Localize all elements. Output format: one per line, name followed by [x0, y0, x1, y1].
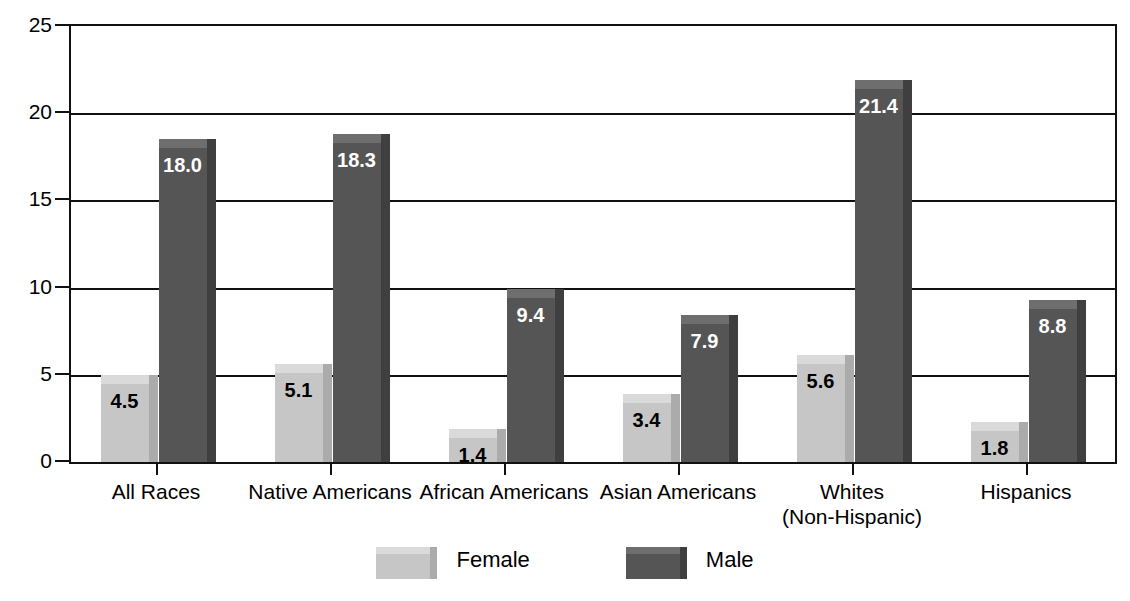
y-tick-label: 5	[12, 363, 52, 384]
bar-top-face	[971, 422, 1019, 431]
legend-item-female[interactable]: Female	[376, 540, 529, 579]
x-tick-mark	[852, 462, 854, 475]
legend-label: Male	[696, 549, 754, 571]
bar-value-label: 1.4	[449, 445, 497, 465]
bar-value-label: 21.4	[855, 96, 903, 116]
swatch-face	[376, 547, 430, 554]
bar-top-face	[855, 80, 903, 89]
x-tick-mark	[330, 462, 332, 475]
x-tick-mark	[1026, 462, 1028, 475]
bar-male-1: 18.3	[333, 134, 381, 462]
bar-top-face	[1029, 300, 1077, 309]
legend-label: Female	[446, 549, 529, 571]
bar-value-label: 9.4	[507, 305, 555, 325]
bar-top-face	[507, 289, 555, 298]
gridline	[71, 200, 1115, 202]
bar-side-face	[555, 289, 564, 462]
bar-value-label: 4.5	[101, 391, 149, 411]
swatch-face	[626, 547, 680, 554]
bar-top-face	[275, 364, 323, 373]
x-tick-mark	[678, 462, 680, 475]
swatch-face	[680, 547, 687, 579]
bar-female-1: 5.1	[275, 364, 323, 462]
bar-top-face	[623, 394, 671, 403]
bar-side-face	[381, 134, 390, 462]
legend-swatch-male	[626, 547, 680, 579]
bar-female-2: 1.4	[449, 429, 497, 462]
bar-female-0: 4.5	[101, 375, 149, 462]
y-tick-mark	[55, 111, 69, 113]
bar-side-face	[149, 375, 158, 462]
gridline	[71, 113, 1115, 115]
bar-male-3: 7.9	[681, 315, 729, 462]
bar-top-face	[159, 139, 207, 148]
bar-top-face	[333, 134, 381, 143]
legend-item-male[interactable]: Male	[626, 540, 754, 579]
bar-side-face	[323, 364, 332, 462]
bar-male-5: 8.8	[1029, 300, 1077, 462]
bar-female-5: 1.8	[971, 422, 1019, 462]
legend-swatch-female	[376, 547, 430, 579]
plot-area: 4.518.05.118.31.49.43.47.95.621.41.88.8	[69, 24, 1117, 464]
bar-top-face	[449, 429, 497, 438]
bar-front-face	[159, 148, 207, 462]
bar-male-2: 9.4	[507, 289, 555, 462]
chart-legend: FemaleMale	[0, 540, 1130, 579]
bar-female-4: 5.6	[797, 355, 845, 462]
bar-front-face	[855, 89, 903, 462]
bar-male-4: 21.4	[855, 80, 903, 462]
bar-side-face	[729, 315, 738, 462]
y-tick-mark	[55, 373, 69, 375]
bar-value-label: 1.8	[971, 438, 1019, 458]
swatch-face	[430, 547, 437, 579]
gridline	[71, 375, 1115, 377]
bar-side-face	[671, 394, 680, 462]
y-tick-label: 25	[12, 14, 52, 35]
y-tick-mark	[55, 286, 69, 288]
x-category-label: Hispanics	[906, 479, 1130, 504]
swatch-face	[376, 554, 430, 579]
bar-top-face	[101, 375, 149, 384]
x-tick-mark	[504, 462, 506, 475]
bar-top-face	[797, 355, 845, 364]
x-tick-mark	[156, 462, 158, 475]
y-tick-label: 0	[12, 450, 52, 471]
bar-side-face	[497, 429, 506, 462]
bar-value-label: 5.6	[797, 371, 845, 391]
bar-female-3: 3.4	[623, 394, 671, 462]
y-tick-mark	[55, 198, 69, 200]
bar-side-face	[903, 80, 912, 462]
bar-top-face	[681, 315, 729, 324]
bar-value-label: 18.0	[159, 155, 207, 175]
gridline	[71, 288, 1115, 290]
bar-side-face	[207, 139, 216, 462]
y-tick-mark	[55, 460, 69, 462]
bar-value-label: 7.9	[681, 331, 729, 351]
bar-value-label: 8.8	[1029, 316, 1077, 336]
swatch-face	[626, 554, 680, 579]
y-tick-mark	[55, 24, 69, 26]
y-tick-label: 15	[12, 188, 52, 209]
bar-value-label: 5.1	[275, 380, 323, 400]
bar-male-0: 18.0	[159, 139, 207, 462]
bar-side-face	[1077, 300, 1086, 462]
bar-value-label: 18.3	[333, 150, 381, 170]
bar-side-face	[1019, 422, 1028, 462]
bar-value-label: 3.4	[623, 410, 671, 430]
y-tick-label: 10	[12, 276, 52, 297]
bar-side-face	[845, 355, 854, 462]
bar-chart: 0510152025 4.518.05.118.31.49.43.47.95.6…	[0, 0, 1130, 601]
bar-front-face	[333, 143, 381, 462]
y-tick-label: 20	[12, 101, 52, 122]
